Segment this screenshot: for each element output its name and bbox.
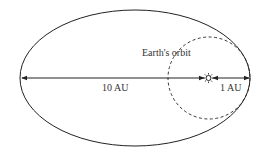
near-distance-label: 1 AU [220,82,242,93]
orbit-diagram: Earth's orbit 10 AU 1 AU [0,0,264,159]
sun-icon [204,73,214,83]
far-distance-label: 10 AU [102,82,129,93]
earth-orbit-label: Earth's orbit [142,47,191,58]
